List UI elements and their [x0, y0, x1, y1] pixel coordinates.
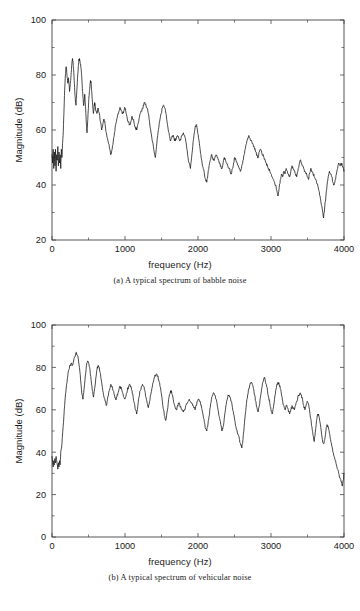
x-axis-label-b: frequency (Hz) — [0, 556, 360, 567]
y-tick-label: 20 — [36, 490, 46, 500]
x-tick-label: 3000 — [261, 244, 281, 254]
figure-caption-b: (b) A typical spectrum of vehicular nois… — [0, 573, 360, 582]
figure-a: 2040608010001000200030004000Magnitude (d… — [0, 0, 360, 303]
x-tick-label: 4000 — [334, 541, 354, 551]
y-tick-label: 20 — [36, 235, 46, 245]
y-tick-label: 80 — [36, 363, 46, 373]
x-tick-label: 1000 — [115, 244, 135, 254]
y-tick-label: 40 — [36, 448, 46, 458]
y-tick-label: 0 — [41, 532, 46, 542]
plot-a-container: 2040608010001000200030004000Magnitude (d… — [0, 0, 360, 258]
y-tick-label: 80 — [36, 70, 46, 80]
spectrum-plot-a: 2040608010001000200030004000Magnitude (d… — [0, 0, 360, 258]
x-axis-label-a: frequency (Hz) — [0, 259, 360, 270]
plot-b-container: 02040608010001000200030004000Magnitude (… — [0, 303, 360, 555]
y-axis-label: Magnitude (dB) — [13, 399, 24, 464]
spectrum-plot-b: 02040608010001000200030004000Magnitude (… — [0, 303, 360, 555]
spectrum-trace — [52, 352, 344, 486]
y-tick-label: 60 — [36, 405, 46, 415]
x-tick-label: 4000 — [334, 244, 354, 254]
y-tick-label: 40 — [36, 180, 46, 190]
x-tick-label: 2000 — [188, 541, 208, 551]
y-tick-label: 100 — [31, 320, 46, 330]
figure-page: 2040608010001000200030004000Magnitude (d… — [0, 0, 360, 611]
y-tick-label: 60 — [36, 125, 46, 135]
figure-b: 02040608010001000200030004000Magnitude (… — [0, 303, 360, 611]
figure-caption-a: (a) A typical spectrum of babble noise — [0, 276, 360, 285]
y-tick-label: 100 — [31, 15, 46, 25]
x-tick-label: 3000 — [261, 541, 281, 551]
x-tick-label: 1000 — [115, 541, 135, 551]
x-tick-label: 0 — [49, 541, 54, 551]
x-tick-label: 0 — [49, 244, 54, 254]
x-tick-label: 2000 — [188, 244, 208, 254]
spectrum-trace — [52, 59, 344, 219]
y-axis-label: Magnitude (dB) — [13, 98, 24, 163]
